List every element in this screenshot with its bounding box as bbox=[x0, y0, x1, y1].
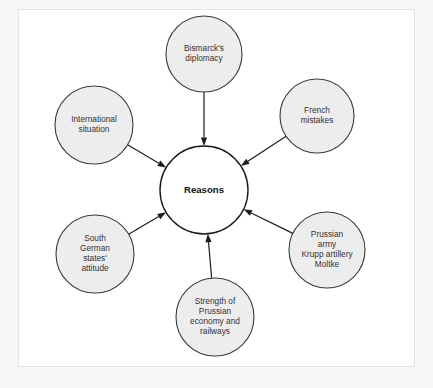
node-text-french-mistakes: Frenchmistakes bbox=[301, 105, 334, 125]
node-text-south-german-states: SouthGermanstates'attitude bbox=[80, 233, 110, 274]
connector-line-south-german-states bbox=[129, 217, 159, 235]
arrowhead-bismarck-diplomacy bbox=[201, 138, 207, 147]
arrowhead-international-situation bbox=[157, 161, 166, 168]
diagram-panel: Bismarck'sdiplomacyFrenchmistakesPrussia… bbox=[18, 9, 415, 367]
connector-line-international-situation bbox=[128, 145, 159, 163]
node-label-line: International bbox=[71, 114, 117, 124]
node-strength-prussian-economy[interactable]: Strength ofPrussianeconomy andrailways bbox=[176, 278, 254, 356]
connector-line-strength-prussian-economy bbox=[209, 242, 212, 278]
arrowhead-strength-prussian-economy bbox=[205, 234, 211, 243]
node-label-line: Bismarck's bbox=[184, 43, 224, 53]
node-label-line: Reasons bbox=[184, 184, 224, 195]
node-label-line: French bbox=[304, 105, 330, 115]
node-text-bismarck-diplomacy: Bismarck'sdiplomacy bbox=[184, 43, 224, 63]
node-label-line: railways bbox=[200, 326, 230, 336]
node-label-line: German bbox=[80, 243, 110, 253]
node-label-line: Krupp artillery bbox=[301, 249, 353, 259]
node-label-line: South bbox=[84, 233, 106, 243]
node-reasons[interactable]: Reasons bbox=[160, 146, 248, 234]
node-label-line: diplomacy bbox=[185, 53, 223, 63]
node-prussian-army[interactable]: PrussianarmyKrupp artilleryMoltke bbox=[289, 212, 365, 288]
connector-line-prussian-army bbox=[251, 213, 293, 233]
node-label-line: mistakes bbox=[301, 115, 334, 125]
node-label-line: army bbox=[318, 239, 337, 249]
node-label-line: Prussian bbox=[199, 306, 232, 316]
spider-diagram-canvas: Bismarck'sdiplomacyFrenchmistakesPrussia… bbox=[19, 10, 414, 366]
node-international-situation[interactable]: Internationalsituation bbox=[55, 86, 133, 164]
node-label-line: Prussian bbox=[311, 229, 344, 239]
node-label-line: states' bbox=[83, 253, 107, 263]
node-label-line: Moltke bbox=[315, 259, 340, 269]
connector-line-french-mistakes bbox=[248, 136, 286, 161]
node-layer: Bismarck'sdiplomacyFrenchmistakesPrussia… bbox=[55, 16, 365, 356]
node-label-line: attitude bbox=[81, 263, 109, 273]
node-south-german-states[interactable]: SouthGermanstates'attitude bbox=[56, 215, 134, 293]
node-label-line: economy and bbox=[190, 316, 240, 326]
arrowhead-south-german-states bbox=[157, 212, 166, 219]
node-label-line: Strength of bbox=[195, 296, 236, 306]
node-text-center: Reasons bbox=[184, 184, 224, 195]
node-french-mistakes[interactable]: Frenchmistakes bbox=[280, 79, 354, 153]
arrowhead-french-mistakes bbox=[241, 159, 250, 166]
node-label-line: situation bbox=[79, 124, 110, 134]
diagram-frame: Bismarck'sdiplomacyFrenchmistakesPrussia… bbox=[0, 0, 433, 388]
node-bismarck-diplomacy[interactable]: Bismarck'sdiplomacy bbox=[166, 16, 242, 92]
arrowhead-prussian-army bbox=[244, 209, 253, 216]
